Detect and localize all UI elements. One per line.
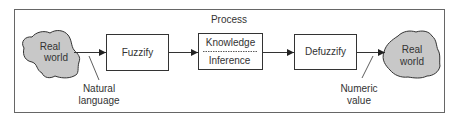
node-label: Knowledge <box>206 37 256 48</box>
node-label: world <box>399 56 424 67</box>
node-label: Real <box>402 44 423 55</box>
fuzzify-node: Fuzzify <box>107 35 169 71</box>
natural-language-label: Natural <box>83 83 115 94</box>
node-label: Defuzzify <box>305 46 346 57</box>
natural-language-label: language <box>78 95 120 106</box>
natural-language-leader <box>89 56 99 80</box>
defuzzify-node: Defuzzify <box>295 35 357 70</box>
node-label: Fuzzify <box>122 47 154 58</box>
process-title: Process <box>211 14 247 25</box>
node-label: Real <box>40 41 61 52</box>
node-label: world <box>43 52 68 63</box>
node-label: Inference <box>209 55 251 66</box>
numeric-value-label: Numeric <box>340 83 377 94</box>
numeric-value-leader <box>362 56 373 78</box>
output-real-world-node: Real world <box>383 31 440 78</box>
numeric-value-label: value <box>347 95 371 106</box>
input-real-world-node: Real world <box>23 31 80 78</box>
knowledge-inference-node: Knowledge Inference <box>199 34 263 70</box>
fuzzy-logic-diagram: Process Real world Fuzzify Knowledge Inf… <box>0 0 456 119</box>
